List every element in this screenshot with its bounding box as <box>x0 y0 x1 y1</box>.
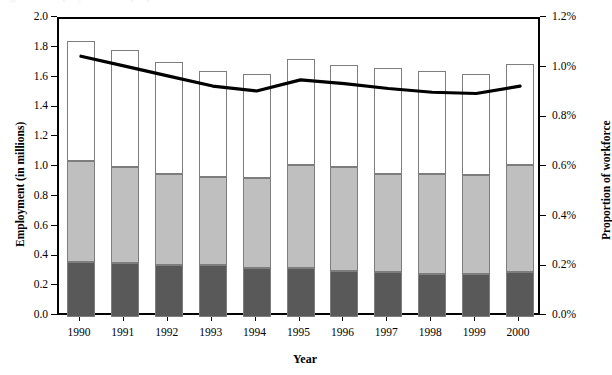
right-tick-mark <box>540 265 546 266</box>
stacked-bar <box>506 19 534 317</box>
bar-segment-top <box>374 68 402 174</box>
bar-segment-top <box>199 71 227 177</box>
stacked-bar <box>462 19 490 317</box>
x-axis-label: Year <box>0 352 610 367</box>
plot-inner <box>59 19 538 313</box>
bar-segment-bottom <box>199 265 227 317</box>
left-tick-label: 0.4 <box>34 249 48 261</box>
left-axis-label: Employment (in millions) <box>14 122 26 247</box>
left-tick-label: 0.0 <box>34 309 48 321</box>
bar-segment-bottom <box>418 274 446 317</box>
bar-segment-middle <box>462 175 490 273</box>
x-tick-label: 1999 <box>449 326 499 338</box>
x-tick-label: 1995 <box>274 326 324 338</box>
left-tick-label: 0.8 <box>34 190 48 202</box>
bar-segment-bottom <box>155 265 183 317</box>
x-tick-label: 1997 <box>361 326 411 338</box>
right-tick-mark <box>540 215 546 216</box>
left-tick-label: 1.8 <box>34 41 48 53</box>
bar-segment-middle <box>111 167 139 264</box>
bar-segment-top <box>418 71 446 174</box>
left-tick-label: 1.6 <box>34 71 48 83</box>
bar-segment-middle <box>287 165 315 268</box>
x-tick-label: 1993 <box>186 326 236 338</box>
x-tick-label: 1994 <box>230 326 280 338</box>
bar-segment-middle <box>506 165 534 272</box>
bar-segment-top <box>330 65 358 166</box>
stacked-bar <box>287 19 315 317</box>
bar-segment-bottom <box>506 272 534 317</box>
stacked-bar <box>418 19 446 317</box>
x-tick-label: 2000 <box>493 326 543 338</box>
left-tick-label: 0.2 <box>34 279 48 291</box>
right-axis-label: Proportion of workforce <box>600 120 612 240</box>
bar-segment-middle <box>374 174 402 272</box>
right-tick-label: 1.0% <box>552 61 576 73</box>
stacked-bar <box>243 19 271 317</box>
right-tick-mark <box>540 314 546 315</box>
bar-segment-middle <box>199 177 227 265</box>
bar-segment-top <box>111 50 139 166</box>
bar-segment-bottom <box>330 271 358 317</box>
right-tick-mark <box>540 116 546 117</box>
bar-segment-middle <box>243 178 271 267</box>
x-tick-label: 1992 <box>142 326 192 338</box>
right-tick-label: 1.2% <box>552 11 576 23</box>
right-tick-label: 0.2% <box>552 259 576 271</box>
right-tick-mark <box>540 66 546 67</box>
bar-segment-top <box>67 41 95 160</box>
x-tick-label: 1990 <box>54 326 104 338</box>
bar-segment-top <box>462 74 490 175</box>
cropped-caption-sliver: Figure 1. Employment and proportion of w… <box>0 0 610 9</box>
bar-segment-top <box>243 74 271 178</box>
right-tick-mark <box>540 16 546 17</box>
x-tick-label: 1998 <box>405 326 455 338</box>
bar-segment-top <box>155 62 183 174</box>
stacked-bar <box>155 19 183 317</box>
right-tick-label: 0.6% <box>552 160 576 172</box>
bar-segment-middle <box>418 174 446 274</box>
stacked-bar <box>111 19 139 317</box>
bar-segment-middle <box>155 174 183 265</box>
bar-segment-bottom <box>462 274 490 317</box>
right-tick-label: 0.0% <box>552 309 576 321</box>
stacked-bar <box>67 19 95 317</box>
stacked-bar <box>199 19 227 317</box>
left-tick-label: 1.2 <box>34 130 48 142</box>
bar-segment-bottom <box>111 263 139 317</box>
x-tick-label: 1996 <box>317 326 367 338</box>
left-tick-label: 0.6 <box>34 220 48 232</box>
x-tick-label: 1991 <box>98 326 148 338</box>
bar-segment-middle <box>67 161 95 262</box>
bar-segment-bottom <box>243 268 271 317</box>
left-tick-label: 1.0 <box>34 160 48 172</box>
bar-segment-bottom <box>374 272 402 317</box>
bar-segment-bottom <box>287 268 315 317</box>
stacked-bar <box>374 19 402 317</box>
right-tick-label: 0.4% <box>552 210 576 222</box>
left-tick-label: 2.0 <box>34 11 48 23</box>
right-tick-label: 0.8% <box>552 110 576 122</box>
cropped-caption-text: Figure 1. Employment and proportion of w… <box>0 0 610 1</box>
left-tick-label: 1.4 <box>34 100 48 112</box>
bar-segment-bottom <box>67 262 95 317</box>
right-tick-mark <box>540 165 546 166</box>
stacked-bar <box>330 19 358 317</box>
bar-segment-top <box>506 64 534 165</box>
plot-area <box>57 17 540 315</box>
bar-segment-top <box>287 59 315 165</box>
bar-segment-middle <box>330 167 358 271</box>
